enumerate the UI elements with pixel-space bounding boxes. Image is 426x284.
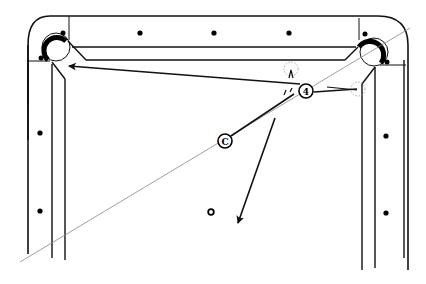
- diamond-top-2: [211, 30, 216, 35]
- object-ball: 4: [299, 84, 313, 98]
- object-ball-path: [69, 66, 300, 84]
- ghost-ball-top: [284, 62, 298, 76]
- diamond-left-1: [37, 130, 42, 135]
- deflection-tick-1: [284, 90, 286, 95]
- diamond-left-2: [37, 208, 42, 213]
- diamond-top-3: [286, 30, 291, 35]
- billiards-diagram: 4 C: [0, 0, 426, 284]
- top-right-pocket: [359, 32, 390, 67]
- diamond-right-2: [383, 210, 388, 215]
- top-left-pocket: [39, 31, 71, 62]
- cue-path: [231, 94, 294, 136]
- cue-ball-label: C: [221, 137, 228, 147]
- left-cushion-jaw: [52, 62, 65, 79]
- object-ball-label: 4: [303, 87, 309, 97]
- top-cushion-jaw-left: [68, 41, 86, 60]
- diamond-right-1: [383, 133, 388, 138]
- table-spot: [208, 209, 214, 215]
- right-cushion-jaw: [362, 67, 375, 84]
- cue-deflection-path: [238, 118, 275, 223]
- deflection-mark-up: [289, 70, 293, 78]
- deflection-tick-2: [290, 88, 292, 92]
- top-cushion-jaw-right: [345, 47, 358, 60]
- cue-ball: C: [218, 134, 232, 148]
- diamond-top-1: [137, 30, 142, 35]
- aim-line: [20, 28, 410, 262]
